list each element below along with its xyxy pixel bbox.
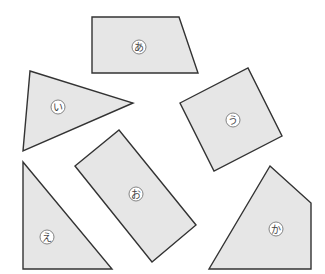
shape-u: う bbox=[180, 68, 282, 171]
shape-ka: か bbox=[209, 166, 311, 269]
label-e: え bbox=[42, 232, 52, 243]
label-o: お bbox=[131, 189, 141, 200]
label-u: う bbox=[228, 115, 238, 126]
shape-a: あ bbox=[92, 17, 198, 73]
label-i: い bbox=[53, 102, 63, 113]
label-a: あ bbox=[134, 42, 144, 53]
pentagon-shape bbox=[209, 166, 311, 269]
label-ka: か bbox=[271, 224, 281, 235]
shape-o: お bbox=[75, 130, 196, 262]
shapes-figure: あ い う え お か bbox=[0, 0, 325, 274]
